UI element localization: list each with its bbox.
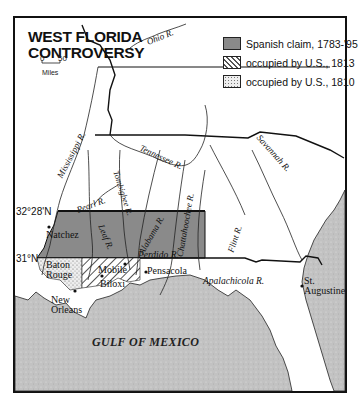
legend-item-1813: occupied by U.S., 1813 — [223, 53, 358, 72]
title-line-1: WEST FLORIDA — [28, 29, 144, 45]
legend-item-1810: occupied by U.S., 1810 — [223, 72, 358, 91]
label-gulf-of-mexico: GULF OF MEXICO — [92, 335, 199, 350]
label-pensacola: Pensacola — [147, 265, 187, 276]
label-perdido-river: Perdido R. — [138, 250, 179, 260]
map-title: WEST FLORIDA CONTROVERSY — [28, 29, 144, 61]
swatch-solid-icon — [223, 37, 241, 50]
label-natchez: Natchez — [46, 229, 79, 240]
label-baton-rouge: Baton Rouge — [46, 260, 82, 280]
label-biloxi: Biloxi — [100, 278, 125, 289]
legend-label: Spanish claim, 1783-'95 — [246, 38, 358, 50]
scale-zero: 0 — [40, 54, 44, 63]
legend-label: occupied by U.S., 1813 — [246, 57, 355, 69]
label-st-augustine: St. Augustine — [304, 276, 348, 296]
title-line-2: CONTROVERSY — [28, 45, 144, 61]
label-new-orleans: New Orleans — [51, 295, 91, 315]
legend-item-spanish-claim: Spanish claim, 1783-'95 — [223, 34, 358, 53]
swatch-stipple-icon — [223, 75, 241, 88]
latitude-31: 31°N — [16, 253, 38, 264]
legend: Spanish claim, 1783-'95 occupied by U.S.… — [223, 34, 358, 91]
scale-fifty: 50 — [58, 54, 67, 63]
label-apalachicola-river: Apalachicola R. — [203, 276, 264, 286]
label-mobile: Mobile — [98, 264, 127, 275]
latitude-32-28: 32°28'N — [16, 206, 51, 217]
swatch-hatch-icon — [223, 56, 241, 69]
legend-label: occupied by U.S., 1810 — [246, 76, 355, 88]
scale-unit: Miles — [42, 69, 58, 76]
